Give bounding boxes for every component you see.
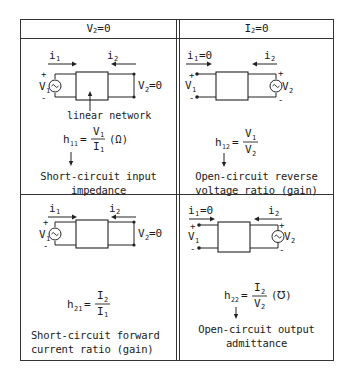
denominator: I <box>97 305 104 318</box>
i2-sub: 2 <box>271 55 275 63</box>
description-line: Short-circuit forward <box>31 329 160 341</box>
equals-sign: = <box>80 133 87 146</box>
plus-sign: + <box>41 69 47 79</box>
open-terminal <box>197 223 201 227</box>
numerator: V <box>93 125 100 138</box>
description-line: Open-circuit output <box>198 323 314 335</box>
unit-mho: (℧) <box>271 289 292 301</box>
h21-description: Short-circuit forward current ratio (gai… <box>21 328 176 356</box>
i1-label: i <box>188 204 195 217</box>
cell-h21: i 1 i 2 + - V 1 V 2 =0 h 21 <box>21 195 176 360</box>
plus-sign: + <box>278 68 284 78</box>
network-box <box>218 222 250 252</box>
i1-sub: 1 <box>194 55 198 63</box>
description-line: admittance <box>226 337 287 349</box>
h21-param-sub: 21 <box>74 305 82 313</box>
unit-ohm: (Ω) <box>109 133 128 145</box>
v2-condition: =0 <box>149 227 162 240</box>
denominator-sub: 1 <box>100 146 104 154</box>
v2-sub: 2 <box>289 87 293 95</box>
denominator: V <box>245 143 252 156</box>
description-line: Short-circuit input <box>40 170 156 182</box>
v1-label: V <box>39 80 46 93</box>
short-circuit-wire <box>108 222 134 245</box>
network-box <box>76 220 108 248</box>
equals-sign: = <box>84 298 91 311</box>
network-box <box>216 72 248 100</box>
current-arrow-i2 <box>111 215 136 220</box>
v1-label: V <box>39 228 46 241</box>
description-line: Open-circuit reverse <box>195 170 317 182</box>
i1-sub: 1 <box>56 55 60 63</box>
v1-sub: 1 <box>46 87 50 95</box>
i2-sub: 2 <box>116 208 120 216</box>
numerator: I <box>254 281 261 294</box>
plus-sign: + <box>43 217 49 227</box>
h12-description: Open-circuit reverse voltage ratio (gain… <box>180 169 333 197</box>
numerator: V <box>245 127 252 140</box>
v1-sub: 1 <box>195 237 199 245</box>
i2-label: i <box>107 49 114 62</box>
numerator-sub: 1 <box>100 131 104 139</box>
h22-param: h <box>224 289 231 302</box>
h11-param-sub: 11 <box>70 140 78 148</box>
v2-sub: 2 <box>291 237 295 245</box>
cell-h12: i 1 =0 i 2 + - V 1 + - V <box>180 39 333 194</box>
h11-description: Short-circuit input impedance <box>21 169 176 197</box>
short-circuit-wire <box>108 74 134 97</box>
h11-param: h <box>63 133 70 146</box>
v2-label: V <box>282 80 289 93</box>
v2-label: V <box>284 230 291 243</box>
minus-sign: - <box>190 244 195 254</box>
h-parameter-table: V2=0 I2=0 i 1 i 2 + <box>20 19 334 361</box>
equals-sign: = <box>232 136 239 149</box>
network-label: linear network <box>67 110 151 121</box>
description-line: current ratio (gain) <box>31 343 153 355</box>
i1-condition: =0 <box>200 204 213 217</box>
current-arrow-i1 <box>186 62 212 67</box>
header-v2-zero: V2=0 <box>21 20 176 38</box>
i2-sub: 2 <box>114 55 118 63</box>
denominator: I <box>93 140 100 153</box>
minus-sign: - <box>189 93 194 103</box>
v1-sub: 1 <box>192 86 196 94</box>
cell-h22: i 1 =0 i 2 + - V 1 + - V 2 <box>180 195 333 360</box>
numerator-sub: 2 <box>104 296 108 304</box>
header-condition: =0 <box>255 22 268 35</box>
i2-label: i <box>109 202 116 215</box>
v2-label: V <box>138 227 145 240</box>
i1-sub: 1 <box>195 210 199 218</box>
v2-label: V <box>138 79 145 92</box>
h22-description: Open-circuit output admittance <box>180 322 333 350</box>
i1-label: i <box>49 49 56 62</box>
h12-param: h <box>215 136 222 149</box>
open-terminal <box>195 72 199 76</box>
open-terminal <box>195 95 199 99</box>
denominator-sub: 2 <box>252 150 256 158</box>
minus-sign: - <box>279 245 284 255</box>
minus-sign: - <box>278 95 283 105</box>
v1-label: V <box>185 79 192 92</box>
equals-sign: = <box>241 289 248 302</box>
header-i2-zero: I2=0 <box>180 20 333 38</box>
denominator: V <box>254 297 261 310</box>
v1-label: V <box>188 230 195 243</box>
plus-sign: + <box>279 220 285 230</box>
header-condition: =0 <box>97 22 110 35</box>
h12-param-sub: 12 <box>222 143 230 151</box>
open-terminal <box>197 246 201 250</box>
i2-label: i <box>268 204 275 217</box>
denominator-sub: 2 <box>261 303 265 311</box>
i2-label: i <box>264 49 271 62</box>
numerator-sub: 2 <box>261 288 265 296</box>
v2-condition: =0 <box>149 79 162 92</box>
denominator-sub: 1 <box>104 311 108 319</box>
v1-sub: 1 <box>46 235 50 243</box>
i1-sub: 1 <box>56 208 60 216</box>
i1-label: i <box>49 202 56 215</box>
h22-param-sub: 22 <box>231 296 239 304</box>
current-arrow-i1 <box>48 62 77 67</box>
i1-label: i <box>187 49 194 62</box>
h21-param: h <box>67 298 74 311</box>
i1-condition: =0 <box>199 49 212 62</box>
